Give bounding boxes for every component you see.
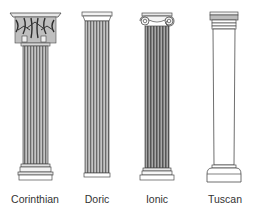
doric-column-icon bbox=[82, 12, 112, 177]
label-ionic: Ionic bbox=[122, 192, 192, 206]
ionic-column-icon bbox=[140, 13, 174, 180]
tuscan-column-icon bbox=[207, 12, 241, 182]
label-tuscan: Tuscan bbox=[190, 192, 253, 206]
column-orders-figure: Corinthian Doric Ionic Tuscan bbox=[0, 0, 253, 214]
label-corinthian: Corinthian bbox=[0, 192, 70, 206]
corinthian-column-icon bbox=[10, 13, 61, 180]
